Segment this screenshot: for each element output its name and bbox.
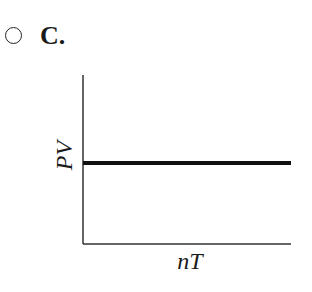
pv-vs-nt-chart — [0, 0, 312, 292]
x-axis-label: nT — [160, 248, 220, 275]
y-axis-label: PV — [51, 136, 78, 176]
